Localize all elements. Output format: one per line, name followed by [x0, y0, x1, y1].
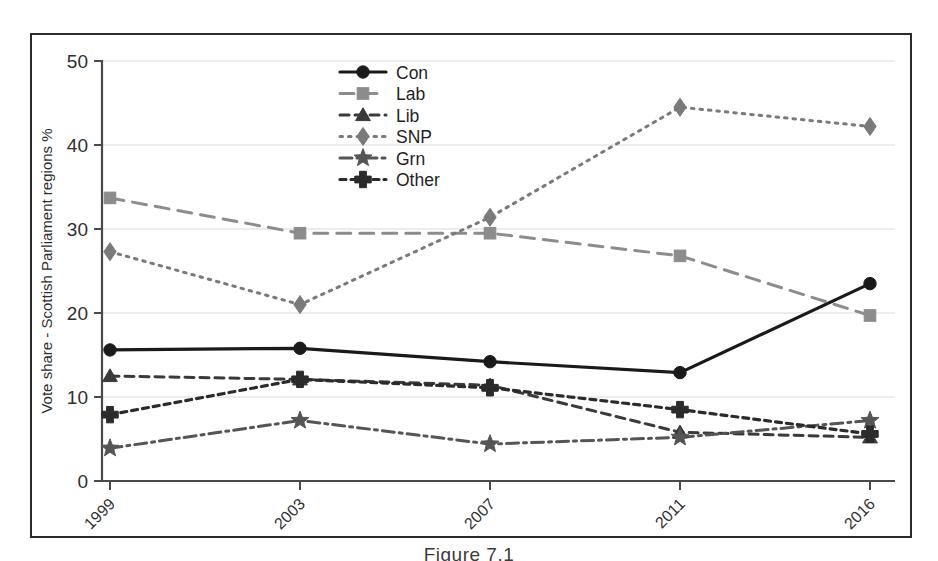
figure-container: 01020304050 19992003200720112016 Vote sh… [0, 0, 938, 561]
x-tick-label: 2016 [841, 495, 878, 532]
gridlines-group [102, 61, 895, 481]
chart-canvas: 01020304050 19992003200720112016 Vote sh… [0, 0, 938, 561]
x-tick-label: 2011 [652, 495, 688, 531]
legend-label-con: Con [396, 63, 428, 83]
data-point-star [291, 411, 309, 428]
data-point-plus [102, 406, 118, 422]
y-tick-label: 50 [67, 51, 88, 72]
y-tick-label: 0 [77, 471, 88, 492]
legend-label-lib: Lib [396, 106, 419, 126]
y-axis-title: Vote share - Scottish Parliament regions… [38, 128, 55, 413]
data-point-star [354, 149, 372, 166]
series-line-snp [110, 107, 870, 304]
data-point-star [481, 435, 499, 452]
x-axis-ticks-group: 19992003200720112016 [81, 481, 878, 532]
legend-group: ConLabLibSNPGrnOther [340, 63, 440, 191]
data-point-square [104, 192, 116, 204]
data-point-circle [104, 344, 116, 356]
data-point-diamond [864, 118, 876, 136]
axis-lines-group [102, 60, 895, 482]
data-point-diamond [294, 296, 306, 314]
data-point-plus [672, 401, 688, 417]
data-point-circle [674, 366, 686, 378]
x-tick-label: 2007 [461, 495, 498, 532]
data-point-circle [357, 66, 369, 78]
y-tick-label: 40 [67, 135, 88, 156]
y-axis-ticks-group: 01020304050 [67, 51, 102, 492]
x-tick-label: 2003 [271, 495, 308, 532]
data-point-square [357, 88, 369, 100]
data-point-circle [484, 356, 496, 368]
y-tick-label: 10 [67, 387, 88, 408]
data-point-plus [482, 380, 498, 396]
figure-caption: Figure 7.1 [0, 545, 938, 561]
data-point-square [674, 250, 686, 262]
data-point-diamond [104, 243, 116, 261]
y-axis-title-group: Vote share - Scottish Parliament regions… [38, 128, 55, 413]
data-point-diamond [484, 208, 496, 226]
data-point-square [294, 227, 306, 239]
data-point-star [101, 439, 119, 456]
legend-label-grn: Grn [396, 149, 425, 169]
y-tick-label: 30 [67, 219, 88, 240]
data-markers-group [101, 98, 879, 456]
y-tick-label: 20 [67, 303, 88, 324]
legend-label-lab: Lab [396, 84, 425, 104]
data-point-diamond [357, 128, 369, 146]
data-point-square [864, 310, 876, 322]
data-point-square [484, 227, 496, 239]
x-tick-label: 1999 [81, 495, 118, 532]
legend-label-other: Other [396, 170, 440, 190]
legend-label-snp: SNP [396, 127, 432, 147]
data-point-plus [355, 171, 371, 187]
data-point-circle [864, 277, 876, 289]
data-point-diamond [674, 98, 686, 116]
data-point-circle [294, 342, 306, 354]
